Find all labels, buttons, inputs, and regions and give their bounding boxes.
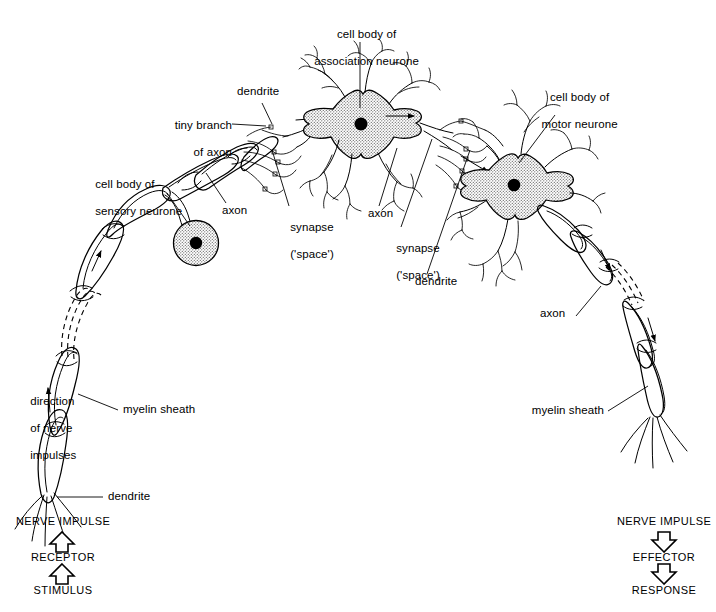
label-synapse-left: synapse ('space') xyxy=(277,207,334,275)
reflex-arc-diagram: cell body of association neurone cell bo… xyxy=(0,0,716,612)
label-axon-right: axon xyxy=(540,307,565,321)
label-dendrite-bottom-left: dendrite xyxy=(108,490,150,504)
label-synapse-right-line1: synapse xyxy=(396,242,440,254)
label-myelin-sheath-left: myelin sheath xyxy=(123,403,195,417)
flow-right-nerve-impulse: NERVE IMPULSE xyxy=(603,515,716,527)
label-myelin-sheath-right: myelin sheath xyxy=(508,404,604,418)
flow-left-stimulus: STIMULUS xyxy=(2,584,124,596)
label-association-cell-body-line1: cell body of xyxy=(337,28,396,40)
motor-axon-fibre xyxy=(538,205,687,468)
label-tiny-branch-of-axon-line1: tiny branch xyxy=(175,119,232,131)
label-motor-cell-body-line1: cell body of xyxy=(550,91,609,103)
down-arrow-effector xyxy=(652,532,676,552)
label-synapse-left-line2: ('space') xyxy=(290,248,334,260)
label-direction-line2: of nerve xyxy=(30,422,72,434)
label-sensory-cell-body-line2: sensory neurone xyxy=(95,205,182,217)
label-synapse-left-line1: synapse xyxy=(290,221,334,233)
label-tiny-branch-of-axon-line2: of axon xyxy=(194,146,232,158)
label-sensory-cell-body: cell body of sensory neurone xyxy=(82,164,202,232)
label-direction-line1: direction xyxy=(30,395,74,407)
label-axon-middle: axon xyxy=(368,207,393,221)
label-tiny-branch-of-axon: tiny branch of axon xyxy=(150,105,232,173)
label-direction-line3: impulses xyxy=(30,449,76,461)
label-axon-left: axon xyxy=(222,204,247,218)
flow-left-receptor: RECEPTOR xyxy=(2,551,124,563)
flow-arrows xyxy=(50,532,676,584)
up-arrow-receptor xyxy=(50,532,74,552)
label-dendrite-right: dendrite xyxy=(415,275,457,289)
label-association-cell-body: cell body of association neurone xyxy=(290,14,430,82)
label-motor-cell-body: cell body of motor neurone xyxy=(508,77,638,145)
label-direction-of-nerve-impulses: direction of nerve impulses xyxy=(17,381,77,476)
label-sensory-cell-body-line1: cell body of xyxy=(95,178,154,190)
label-dendrite-top: dendrite xyxy=(237,85,279,99)
label-motor-cell-body-line2: motor neurone xyxy=(542,118,618,130)
flow-right-effector: EFFECTOR xyxy=(603,551,716,563)
label-association-cell-body-line2: association neurone xyxy=(314,55,419,67)
up-arrow-stimulus xyxy=(50,564,74,584)
flow-right-response: RESPONSE xyxy=(603,584,716,596)
flow-left-nerve-impulse: NERVE IMPULSE xyxy=(2,515,124,527)
down-arrow-response xyxy=(652,564,676,584)
